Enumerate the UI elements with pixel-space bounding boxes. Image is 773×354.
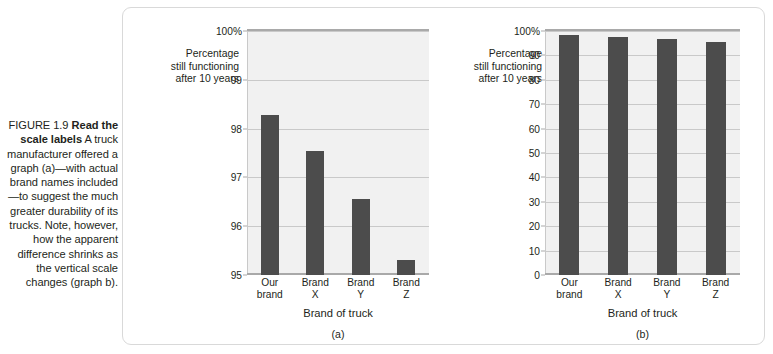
x-tick-label-brand-x: Brand X — [302, 277, 329, 302]
chart-b-x-axis-title: Brand of truck — [545, 307, 740, 319]
chart-b: Percentage still functioning after 10 ye… — [435, 8, 760, 344]
x-tick-label-brand-y: Brand Y — [653, 277, 680, 302]
chart-a-plot-area: 9596979899100% — [247, 29, 429, 275]
chart-b-y-tick-label: 50 — [529, 148, 540, 159]
chart-a-y-axis-title-line2: still functioning — [135, 61, 239, 74]
chart-a: Percentage still functioning after 10 ye… — [131, 8, 441, 344]
chart-a-y-tick-mark — [243, 226, 247, 227]
bar-brand-z — [706, 42, 726, 275]
chart-b-plot-area: 0102030405060708090100% — [545, 29, 740, 275]
x-tick-label-our-brand: Our brand — [257, 277, 283, 302]
chart-a-y-tick-label: 100% — [216, 26, 242, 37]
chart-b-y-tick-label: 90 — [529, 50, 540, 61]
chart-b-y-axis-title-line1: Percentage — [437, 48, 542, 61]
x-tick-label-brand-z: Brand Z — [393, 277, 420, 302]
chart-b-y-tick-mark — [541, 31, 545, 32]
chart-b-y-tick-mark — [541, 153, 545, 154]
chart-b-gridline — [545, 31, 740, 32]
chart-a-y-tick-mark — [243, 128, 247, 129]
chart-b-y-axis-title: Percentage still functioning after 10 ye… — [437, 48, 542, 86]
bar-our-brand — [559, 35, 579, 275]
bar-brand-x — [306, 151, 324, 275]
bar-brand-y — [657, 39, 677, 275]
chart-b-y-tick-label: 30 — [529, 196, 540, 207]
chart-a-y-tick-label: 95 — [231, 270, 242, 281]
chart-b-y-tick-mark — [541, 104, 545, 105]
chart-b-y-tick-mark — [541, 226, 545, 227]
chart-a-x-axis-title: Brand of truck — [247, 307, 429, 319]
bar-our-brand — [261, 115, 279, 275]
chart-b-y-tick-label: 60 — [529, 123, 540, 134]
chart-b-y-tick-label: 80 — [529, 74, 540, 85]
chart-b-y-tick-mark — [541, 128, 545, 129]
chart-b-y-tick-mark — [541, 177, 545, 178]
chart-a-y-tick-mark — [243, 275, 247, 276]
chart-a-y-tick-mark — [243, 31, 247, 32]
figure-body-text: A truck manufacturer offered a graph (a)… — [7, 133, 118, 288]
x-tick-label-brand-x: Brand X — [605, 277, 632, 302]
chart-a-gridline — [247, 31, 429, 32]
x-tick-label-brand-z: Brand Z — [702, 277, 729, 302]
x-tick-label-brand-y: Brand Y — [347, 277, 374, 302]
bar-brand-x — [608, 37, 628, 275]
chart-a-y-axis-line — [247, 31, 248, 275]
chart-b-y-tick-mark — [541, 250, 545, 251]
chart-b-panel-letter: (b) — [545, 328, 740, 340]
bar-brand-y — [352, 199, 370, 275]
chart-b-y-axis-title-line3: after 10 years — [437, 73, 542, 86]
chart-b-y-tick-mark — [541, 201, 545, 202]
figure-caption: FIGURE 1.9 Read the scale labels A truck… — [6, 118, 118, 290]
bar-brand-z — [397, 260, 415, 275]
chart-a-y-tick-mark — [243, 177, 247, 178]
chart-a-panel-letter: (a) — [247, 328, 429, 340]
chart-a-y-tick-label: 96 — [231, 221, 242, 232]
chart-a-y-axis-title: Percentage still functioning after 10 ye… — [135, 48, 239, 86]
chart-b-y-tick-label: 70 — [529, 99, 540, 110]
chart-b-y-tick-label: 40 — [529, 172, 540, 183]
figure-panel: Percentage still functioning after 10 ye… — [122, 7, 765, 345]
chart-a-y-tick-label: 97 — [231, 172, 242, 183]
chart-b-y-tick-mark — [541, 275, 545, 276]
chart-a-plot: 9596979899100% — [247, 29, 429, 275]
figure-number: FIGURE 1.9 — [9, 119, 69, 131]
chart-b-y-tick-label: 20 — [529, 221, 540, 232]
chart-a-y-tick-label: 98 — [231, 123, 242, 134]
chart-b-y-tick-label: 10 — [529, 245, 540, 256]
figure-page: FIGURE 1.9 Read the scale labels A truck… — [0, 0, 773, 354]
chart-a-y-axis-title-line1: Percentage — [135, 48, 239, 61]
chart-a-y-tick-label: 99 — [231, 74, 242, 85]
chart-a-gridline — [247, 80, 429, 81]
chart-b-y-tick-mark — [541, 79, 545, 80]
chart-b-y-axis-title-line2: still functioning — [437, 61, 542, 74]
chart-a-y-tick-mark — [243, 79, 247, 80]
x-tick-label-our-brand: Our brand — [556, 277, 582, 302]
chart-b-y-tick-label: 100% — [514, 26, 540, 37]
chart-b-plot: 0102030405060708090100% — [545, 29, 740, 275]
chart-a-y-axis-title-line3: after 10 years — [135, 73, 239, 86]
chart-b-y-tick-label: 0 — [534, 270, 540, 281]
chart-b-y-tick-mark — [541, 55, 545, 56]
